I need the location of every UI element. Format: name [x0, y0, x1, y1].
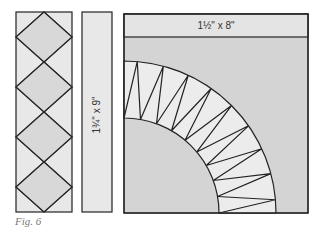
top-band-label: 1½" x 8": [197, 20, 235, 31]
middle-strip-label: 1¾" x 9": [91, 96, 102, 134]
left-diamond-strip: [16, 12, 72, 212]
figure-caption: Fig. 6: [14, 215, 42, 227]
figure-canvas: 1¾" x 9" 1½" x 8" Fig. 6: [0, 0, 323, 235]
quilt-block: 1½" x 8": [124, 14, 308, 213]
middle-strip: 1¾" x 9": [82, 12, 112, 212]
